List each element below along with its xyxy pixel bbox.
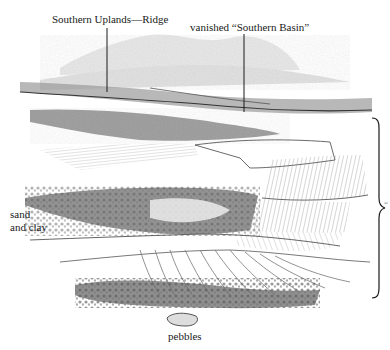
label-clay-line: and clay	[10, 221, 47, 234]
pebble-sketch	[167, 313, 198, 326]
label-pebbles: pebbles	[168, 330, 202, 343]
label-ridge: Southern Uplands—Ridge	[52, 13, 168, 26]
label-right-cutoff: “	[384, 198, 388, 211]
landscape-illustration	[0, 0, 390, 350]
label-sand-and-clay: sand and clay	[10, 208, 47, 234]
landscape-diagram: Southern Uplands—Ridge vanished “Souther…	[0, 0, 390, 350]
label-sand-line: sand	[10, 208, 47, 221]
label-vanished-basin: vanished “Southern Basin”	[190, 21, 309, 34]
